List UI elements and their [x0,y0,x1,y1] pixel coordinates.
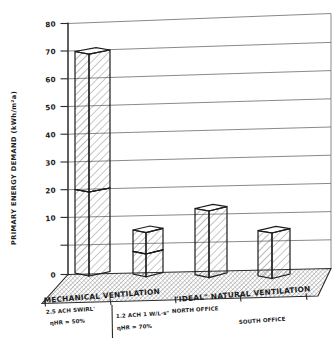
bar-3-natural-north-office[interactable] [195,204,227,277]
y-axis-title: PRIMARY ENERGY DEMAND (kWh/m²a) [10,91,18,245]
y-tick-label-40: 40 [45,130,56,140]
hand-drawn-bar-chart: 80 70 60 50 40 30 20 10 0 PRIMARY ENERGY… [0,0,334,346]
y-tick-label-80: 80 [45,20,56,30]
y-tick-label-0: 0 [50,271,56,280]
y-tick-label-60: 60 [45,75,56,85]
y-tick-label-70: 70 [45,47,56,57]
y-tick-label-30: 30 [45,158,56,168]
category-sub-south-office: SOUTH OFFICE [239,316,286,325]
category-sub-mech-a-line2: ηHR = 50% [50,318,86,327]
bar-4-natural-south-office[interactable] [258,226,290,278]
y-tick-label-20: 20 [45,186,56,196]
y-tick-labels: 80 70 60 50 40 30 20 10 0 [45,20,56,280]
chart-svg: 80 70 60 50 40 30 20 10 0 PRIMARY ENERGY… [0,0,334,346]
category-sub-mech-b-line1: 1.2 ACH 1 W/L·s" [116,310,170,319]
category-sub-north-office: NORTH OFFICE [172,305,219,314]
y-axis [61,23,69,276]
y-axis-title-group: PRIMARY ENERGY DEMAND (kWh/m²a) [10,91,18,245]
y-tick-label-10: 10 [45,213,56,223]
y-tick-label-50: 50 [45,103,56,113]
bar-2-mechanical-12ach[interactable] [133,226,163,277]
bar-1-mechanical-25ach[interactable] [75,48,110,276]
category-sub-mech-b-line2: ηHR = 70% [117,323,153,332]
category-sub-mech-a-line1: 2.5 ACH SWIRL' [46,306,96,315]
